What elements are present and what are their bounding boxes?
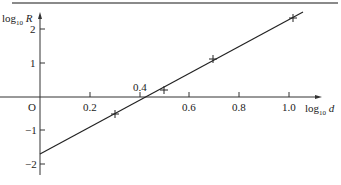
- x-tick-0.8: 0.8: [232, 102, 246, 113]
- x-tick-0.4: 0.4: [133, 82, 147, 93]
- y-label-base: log: [2, 12, 16, 24]
- x-tick-0.6: 0.6: [182, 102, 196, 113]
- x-label-var: d: [329, 102, 335, 114]
- y-tick-2: 2: [30, 24, 36, 35]
- x-tick-0.2: 0.2: [83, 102, 97, 113]
- chart-plot: [0, 0, 341, 185]
- x-label-sub: 10: [319, 109, 326, 117]
- x-ticks: [90, 92, 289, 97]
- x-axis-arrow-icon: [315, 95, 322, 99]
- y-label-sub: 10: [16, 19, 23, 27]
- origin-label: O: [28, 102, 36, 113]
- fitted-line: [40, 12, 303, 154]
- x-label-base: log: [305, 102, 319, 114]
- y-tick-minus1: −1: [25, 125, 37, 136]
- y-axis-arrow-icon: [38, 12, 42, 19]
- y-tick-minus2: −2: [25, 159, 37, 170]
- y-axis-label: log10 R: [2, 13, 33, 27]
- x-axis-label: log10 d: [305, 103, 334, 117]
- y-tick-1: 1: [30, 58, 36, 69]
- x-tick-1.0: 1.0: [282, 102, 296, 113]
